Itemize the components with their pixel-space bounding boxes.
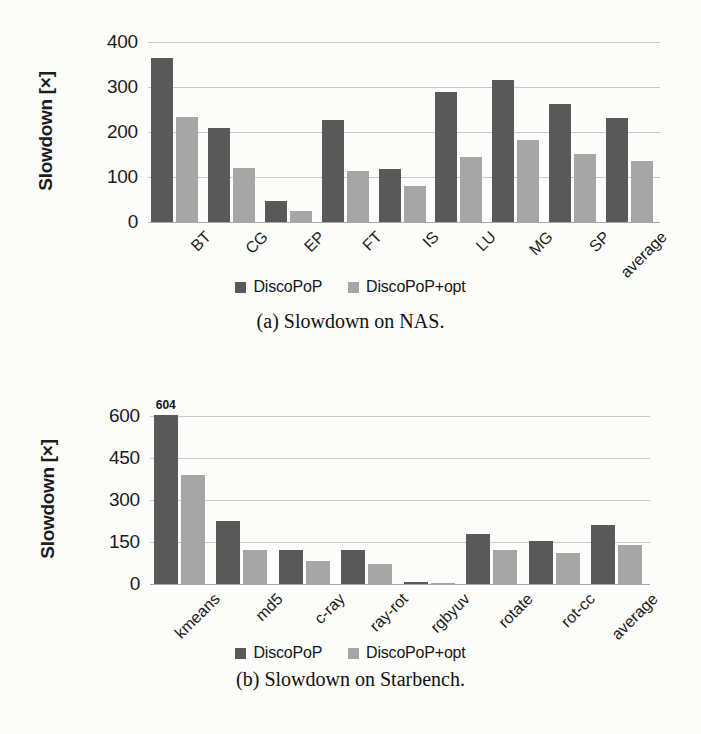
- legend-item: DiscoPoP+opt: [348, 644, 465, 662]
- legend: DiscoPoPDiscoPoP+opt: [0, 278, 701, 296]
- legend-label: DiscoPoP: [253, 644, 322, 662]
- legend-label: DiscoPoP: [253, 278, 322, 296]
- legend-swatch-light: [348, 648, 359, 659]
- bar-kmeans-discopop: [154, 415, 178, 584]
- bar-is-discopop-opt: [404, 186, 426, 222]
- bar-ft-discopop: [322, 120, 344, 222]
- bar-rgbyuv-discopop: [404, 582, 428, 584]
- bar-average-discopop-opt: [618, 545, 642, 584]
- bar-ep-discopop: [265, 201, 287, 222]
- bar-average-discopop: [606, 118, 628, 222]
- gridline: [148, 87, 660, 88]
- y-axis-tick: 100: [90, 166, 138, 188]
- bar-md5-discopop-opt: [243, 550, 267, 584]
- bar-rot-cc-discopop-opt: [556, 553, 580, 584]
- bar-c-ray-discopop-opt: [306, 561, 330, 584]
- bar-average-discopop-opt: [631, 161, 653, 222]
- bar-bt-discopop-opt: [176, 117, 198, 222]
- bar-mg-discopop: [492, 80, 514, 222]
- bar-lu-discopop: [435, 92, 457, 223]
- bar-ray-rot-discopop-opt: [368, 564, 392, 584]
- legend-label: DiscoPoP+opt: [366, 644, 465, 662]
- bar-c-ray-discopop: [279, 550, 303, 584]
- gridline: [150, 458, 650, 459]
- x-axis-line: [150, 584, 650, 585]
- bar-kmeans-discopop-opt: [181, 475, 205, 584]
- x-axis-line: [148, 222, 660, 223]
- bar-average-discopop: [591, 525, 615, 584]
- bar-cg-discopop: [208, 128, 230, 222]
- figure-a: Slowdown [×]0100200300400BTCGEPFTISLUMGS…: [0, 0, 701, 368]
- bar-ep-discopop-opt: [290, 211, 312, 222]
- legend-swatch-dark: [235, 282, 246, 293]
- bar-rot-cc-discopop: [529, 541, 553, 584]
- gridline: [150, 416, 650, 417]
- bar-sp-discopop: [549, 104, 571, 222]
- bar-rgbyuv-discopop-opt: [431, 583, 455, 584]
- bar-ft-discopop-opt: [347, 171, 369, 222]
- legend-label: DiscoPoP+opt: [366, 278, 465, 296]
- bar-md5-discopop: [216, 521, 240, 584]
- y-axis-tick: 300: [90, 76, 138, 98]
- gridline: [150, 500, 650, 501]
- y-axis-tick: 200: [90, 121, 138, 143]
- legend-item: DiscoPoP+opt: [348, 278, 465, 296]
- bar-rotate-discopop: [466, 534, 490, 584]
- y-axis-title: Slowdown [×]: [35, 61, 57, 201]
- bar-is-discopop: [379, 169, 401, 222]
- bar-mg-discopop-opt: [517, 140, 539, 222]
- figure-b: Slowdown [×]0150300450600604kmeansmd5c-r…: [0, 366, 701, 734]
- y-axis-title: Slowdown [×]: [37, 429, 59, 569]
- bar-rotate-discopop-opt: [493, 550, 517, 584]
- legend-item: DiscoPoP: [235, 278, 322, 296]
- bar-sp-discopop-opt: [574, 154, 596, 222]
- y-axis-tick: 450: [92, 447, 140, 469]
- bar-value-label: 604: [156, 398, 176, 412]
- y-axis-tick: 600: [92, 405, 140, 427]
- legend: DiscoPoPDiscoPoP+opt: [0, 644, 701, 662]
- y-axis-tick: 150: [92, 531, 140, 553]
- bar-cg-discopop-opt: [233, 168, 255, 222]
- y-axis-tick: 400: [90, 31, 138, 53]
- y-axis-tick: 0: [90, 211, 138, 233]
- bar-bt-discopop: [151, 58, 173, 222]
- bar-ray-rot-discopop: [341, 550, 365, 584]
- y-axis-tick: 300: [92, 489, 140, 511]
- legend-swatch-dark: [235, 648, 246, 659]
- legend-item: DiscoPoP: [235, 644, 322, 662]
- gridline: [148, 42, 660, 43]
- legend-swatch-light: [348, 282, 359, 293]
- y-axis-tick: 0: [92, 573, 140, 595]
- figure-caption: (b) Slowdown on Starbench.: [0, 668, 701, 691]
- bar-lu-discopop-opt: [460, 157, 482, 222]
- figure-caption: (a) Slowdown on NAS.: [0, 310, 701, 333]
